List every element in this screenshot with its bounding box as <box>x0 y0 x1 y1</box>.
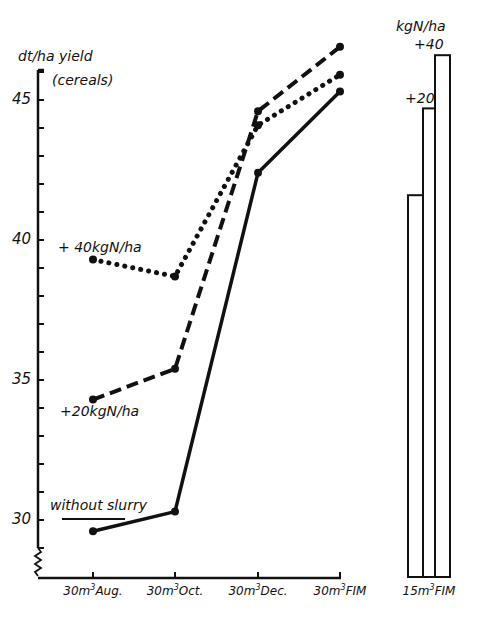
y-tick-label: 35 <box>12 370 31 388</box>
x-tick-label: 30m3Oct. <box>147 583 204 598</box>
annotation-plus20: +20kgN/ha <box>60 403 139 419</box>
annotation-without-slurry: without slurry <box>50 497 147 513</box>
bar-category-label: 15m3FIM <box>403 583 456 598</box>
data-point <box>336 88 344 96</box>
data-point <box>254 121 262 129</box>
x-tick-label: 30m3Dec. <box>228 583 287 598</box>
data-point <box>336 71 344 79</box>
bar-+40 <box>435 55 450 577</box>
data-point <box>171 365 179 373</box>
bar-+20 <box>423 108 435 577</box>
bar-base <box>408 195 423 577</box>
bar-label-plus40: +40 <box>414 36 444 52</box>
bar-unit-label: kgN/ha <box>396 18 446 34</box>
y-axis-subtitle: (cereals) <box>52 72 113 88</box>
data-point <box>254 169 262 177</box>
data-point <box>171 272 179 280</box>
y-tick-label: 45 <box>12 90 31 108</box>
y-tick-label: 30 <box>12 510 31 528</box>
data-point <box>254 107 262 115</box>
data-point <box>171 508 179 516</box>
data-point <box>336 43 344 51</box>
x-tick-label: 30m3FIM <box>314 583 367 598</box>
data-point <box>89 527 97 535</box>
annotation-plus40: + 40kgN/ha <box>58 239 142 255</box>
data-point <box>89 256 97 264</box>
y-axis-title: dt/ha yield <box>18 48 93 64</box>
axis-break-icon <box>35 548 41 576</box>
x-tick-label: 30m3Aug. <box>63 583 122 598</box>
series-line-solid <box>93 92 340 532</box>
bar-label-plus20: +20 <box>405 90 435 106</box>
y-tick-label: 40 <box>12 230 31 248</box>
